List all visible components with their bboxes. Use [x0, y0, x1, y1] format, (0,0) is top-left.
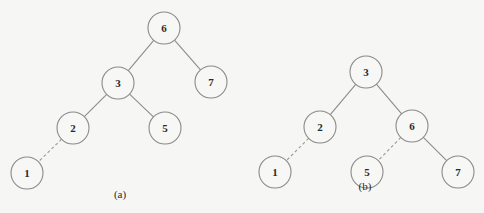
caption-a: (a) — [114, 188, 127, 201]
edge-6-3 — [128, 40, 153, 70]
node-3: 3 — [350, 56, 382, 88]
node-7: 7 — [442, 156, 474, 188]
diagram-canvas: 637251(a)326157(b) — [0, 0, 484, 213]
node-label: 2 — [70, 122, 76, 134]
node-label: 5 — [364, 166, 370, 178]
node-label: 5 — [162, 122, 168, 134]
node-label: 1 — [272, 166, 278, 178]
edge-6-7 — [175, 40, 201, 70]
node-label: 1 — [24, 167, 30, 179]
node-2: 2 — [57, 112, 89, 144]
node-3: 3 — [102, 67, 134, 99]
edge-3-5 — [130, 94, 154, 117]
tree-b: 326157(b) — [259, 56, 474, 193]
node-7: 7 — [195, 66, 227, 98]
caption-b: (b) — [359, 180, 372, 193]
edge-3-2 — [330, 84, 355, 114]
node-1: 1 — [259, 156, 291, 188]
node-label: 3 — [363, 66, 369, 78]
node-5: 5 — [149, 112, 181, 144]
edge-6-5-dashed — [378, 137, 401, 160]
node-label: 6 — [161, 22, 167, 34]
edge-6-7 — [423, 137, 446, 160]
tree-a: 637251(a) — [11, 12, 227, 201]
node-label: 7 — [208, 76, 214, 88]
edge-3-6 — [376, 84, 401, 114]
tree-rotation-diagram: 637251(a)326157(b) — [0, 0, 484, 213]
edge-2-1-dashed — [38, 139, 61, 162]
edge-3-2 — [84, 94, 106, 116]
node-1: 1 — [11, 157, 43, 189]
edge-2-1-dashed — [286, 138, 308, 160]
node-label: 6 — [409, 120, 415, 132]
node-label: 3 — [115, 77, 121, 89]
node-6: 6 — [148, 12, 180, 44]
node-label: 2 — [317, 121, 323, 133]
node-2: 2 — [304, 111, 336, 143]
node-6: 6 — [396, 110, 428, 142]
node-label: 7 — [455, 166, 461, 178]
